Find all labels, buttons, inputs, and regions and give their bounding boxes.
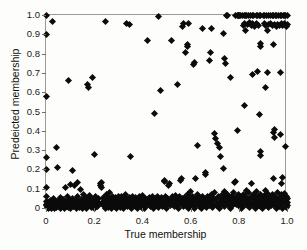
x-tick-label: 0 xyxy=(43,214,48,227)
data-point xyxy=(256,111,263,118)
data-point xyxy=(264,69,271,76)
y-tick-mark xyxy=(42,189,46,190)
x-tick-mark: 0 xyxy=(46,208,47,212)
y-tick-mark xyxy=(42,169,46,170)
y-tick-label: 0.4 xyxy=(27,124,40,137)
x-tick-mark: 0.2 xyxy=(94,208,95,212)
data-point xyxy=(242,27,249,34)
y-tick-label: 0.8 xyxy=(27,47,40,60)
data-point xyxy=(192,175,199,182)
data-point xyxy=(234,127,241,134)
y-tick-mark xyxy=(42,15,46,16)
data-point xyxy=(199,25,206,32)
y-tick-mark xyxy=(42,150,46,151)
data-point xyxy=(151,110,158,117)
data-point xyxy=(220,30,227,37)
y-axis-label: Predeicted membership xyxy=(9,34,21,174)
data-point xyxy=(277,69,284,76)
data-point xyxy=(264,27,271,34)
x-axis-label: True membership xyxy=(45,228,286,240)
x-tick-label: 0.2 xyxy=(88,214,101,227)
y-tick-mark xyxy=(42,112,46,113)
data-point xyxy=(53,144,60,151)
y-tick-label: 1.0 xyxy=(27,8,40,21)
data-point xyxy=(127,153,134,160)
scatter-plot-figure: Predeicted membership 00.10.20.30.40.50.… xyxy=(0,0,307,250)
data-point xyxy=(277,131,284,138)
data-point xyxy=(282,23,289,30)
data-point xyxy=(185,20,192,27)
data-point xyxy=(144,37,151,44)
data-point xyxy=(262,84,269,91)
data-point xyxy=(227,74,234,81)
data-point xyxy=(42,93,49,100)
data-point xyxy=(217,153,224,160)
data-point xyxy=(126,21,133,28)
data-point xyxy=(278,180,285,187)
data-point xyxy=(168,37,175,44)
data-point xyxy=(174,81,181,88)
y-tick-label: 0.2 xyxy=(27,162,40,175)
y-tick-label: 0.9 xyxy=(27,27,40,40)
y-tick-mark xyxy=(42,92,46,93)
data-point xyxy=(208,25,215,32)
y-tick-mark xyxy=(42,131,46,132)
data-point xyxy=(182,49,189,56)
x-tick-mark: 0.8 xyxy=(239,208,240,212)
plot-area: 00.10.20.30.40.50.60.70.80.91.0 00.20.40… xyxy=(45,14,286,207)
data-point xyxy=(157,87,164,94)
y-tick-mark xyxy=(42,34,46,35)
y-tick-label: 0.5 xyxy=(27,105,40,118)
data-point xyxy=(257,152,264,159)
data-point xyxy=(206,57,213,64)
data-point xyxy=(248,180,255,187)
y-tick-label: 0.7 xyxy=(27,66,40,79)
x-tick-label: 0.6 xyxy=(184,214,197,227)
data-point xyxy=(269,41,276,48)
data-point xyxy=(207,49,214,56)
y-tick-label: 0.6 xyxy=(27,85,40,98)
x-tick-mark: 0.4 xyxy=(142,208,143,212)
y-tick-label: 0.1 xyxy=(27,182,40,195)
data-point xyxy=(54,164,61,171)
data-point xyxy=(69,167,76,174)
data-point xyxy=(220,165,227,172)
data-point xyxy=(42,154,49,161)
x-tick-mark: 1.0 xyxy=(287,208,288,212)
x-tick-label: 1.0 xyxy=(280,214,293,227)
y-tick-label: 0 xyxy=(35,201,40,214)
data-point xyxy=(91,151,98,158)
data-point xyxy=(155,13,162,20)
data-point xyxy=(216,144,223,151)
data-point xyxy=(269,175,276,182)
y-tick-mark xyxy=(42,54,46,55)
x-tick-label: 0.8 xyxy=(232,214,245,227)
data-points-layer xyxy=(46,15,285,206)
data-point xyxy=(194,142,201,149)
x-tick-mark: 0.6 xyxy=(191,208,192,212)
data-point xyxy=(98,184,105,191)
data-point xyxy=(49,18,56,25)
data-point xyxy=(282,143,289,150)
data-point xyxy=(241,102,248,109)
data-point xyxy=(89,74,96,81)
data-point xyxy=(65,77,72,84)
x-tick-label: 0.4 xyxy=(136,214,149,227)
data-point xyxy=(102,18,109,25)
y-tick-label: 0.3 xyxy=(27,143,40,156)
y-tick-mark xyxy=(42,73,46,74)
